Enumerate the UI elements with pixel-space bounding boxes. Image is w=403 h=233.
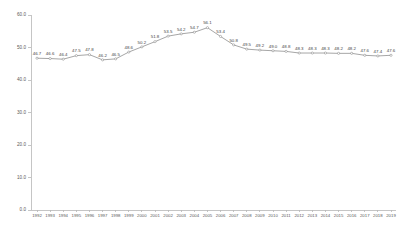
data-point-label: 46.4 [59,52,68,57]
x-tick-label: 2002 [163,213,173,218]
y-tick-label: 0.0 [20,207,27,212]
x-tick-label: 2017 [360,213,370,218]
series-marker [75,55,77,57]
series-marker [337,52,339,54]
data-point-label: 46.2 [98,53,107,58]
data-point-label: 48.2 [347,46,356,51]
data-point-label: 48.8 [282,44,291,49]
x-tick-label: 2000 [137,213,147,218]
series-marker [298,52,300,54]
series-marker [311,52,313,54]
x-tick-label: 1994 [58,213,68,218]
x-tick-label: 1999 [124,213,134,218]
line-chart: 0.010.020.030.040.050.060.0 199219931994… [0,0,403,233]
x-tick-label: 2014 [321,213,331,218]
x-tick-label: 2009 [255,213,265,218]
data-series-group [36,27,392,61]
series-marker [88,54,90,56]
series-marker [167,35,169,37]
y-tick-label: 10.0 [17,175,26,180]
y-tick-label: 50.0 [17,45,26,50]
data-point-label: 49.0 [269,44,278,49]
data-point-label: 54.7 [190,25,199,30]
data-point-label: 53.5 [164,29,173,34]
series-marker [141,46,143,48]
x-tick-label: 2016 [347,213,357,218]
data-point-labels: 46.746.646.447.547.846.246.548.650.251.8… [33,20,396,57]
series-marker [206,27,208,29]
x-tick-label: 1995 [72,213,82,218]
chart-plot-area: 0.010.020.030.040.050.060.0 199219931994… [0,0,403,233]
data-point-label: 49.5 [243,42,252,47]
series-marker [390,54,392,56]
series-marker [233,44,235,46]
data-point-label: 51.8 [151,34,160,39]
data-point-label: 47.5 [72,48,81,53]
x-tick-label: 2006 [216,213,226,218]
data-point-label: 47.8 [85,47,94,52]
y-tick-label: 60.0 [17,12,26,17]
x-tick-label: 1997 [98,213,108,218]
x-tick-label: 2001 [150,213,160,218]
x-tick-label: 2013 [308,213,318,218]
series-marker [377,55,379,57]
x-tick-label: 2010 [268,213,278,218]
x-tick-label: 2011 [281,213,291,218]
series-marker [49,57,51,59]
x-tick-label: 2007 [229,213,239,218]
data-point-label: 48.3 [295,46,304,51]
x-tick-label: 2019 [386,213,396,218]
data-point-label: 48.3 [308,46,317,51]
series-marker [154,41,156,43]
y-tick-group: 0.010.020.030.040.050.060.0 [17,12,31,212]
x-tick-label: 2015 [334,213,344,218]
x-tick-label: 1996 [85,213,95,218]
series-marker [324,52,326,54]
series-marker [285,50,287,52]
data-point-label: 47.6 [361,48,370,53]
series-marker [128,51,130,53]
data-point-label: 48.2 [334,46,343,51]
data-point-label: 53.4 [216,29,225,34]
series-marker [36,57,38,59]
series-marker [246,48,248,50]
series-marker [259,49,261,51]
y-tick-label: 40.0 [17,77,26,82]
series-marker [364,54,366,56]
x-tick-label: 2004 [190,213,200,218]
x-tick-label: 1992 [32,213,42,218]
data-point-label: 48.6 [125,45,134,50]
x-tick-label: 2003 [176,213,186,218]
x-tick-label: 1993 [45,213,55,218]
data-point-label: 49.2 [256,43,265,48]
x-tick-label: 2018 [373,213,383,218]
data-point-label: 46.6 [46,51,55,56]
data-point-label: 46.7 [33,51,42,56]
data-point-label: 46.5 [111,52,120,57]
series-marker [272,50,274,52]
data-point-label: 50.2 [138,40,147,45]
y-tick-label: 20.0 [17,142,26,147]
data-point-label: 47.4 [374,49,383,54]
series-marker [351,52,353,54]
x-tick-label: 2008 [242,213,252,218]
series-marker [101,59,103,61]
x-tick-label: 2005 [203,213,213,218]
series-marker [62,58,64,60]
data-point-label: 48.3 [321,46,330,51]
x-tick-label: 1998 [111,213,121,218]
x-tick-group: 1992199319941995199619971998199920002001… [32,210,396,218]
series-marker [115,58,117,60]
x-tick-label: 2012 [294,213,304,218]
data-point-label: 47.6 [387,48,396,53]
series-marker [193,31,195,33]
data-point-label: 56.1 [203,20,212,25]
data-point-label: 50.8 [229,38,238,43]
data-point-label: 54.2 [177,27,186,32]
series-marker [219,35,221,37]
series-marker [180,33,182,35]
y-tick-label: 30.0 [17,110,26,115]
